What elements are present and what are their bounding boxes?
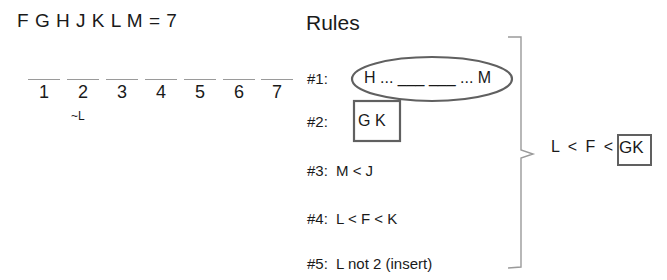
bracket-icon bbox=[508, 37, 533, 268]
conclusion-boxed-text: GK bbox=[619, 138, 644, 158]
conclusion-text: L < F < bbox=[551, 138, 613, 156]
rule-2-box bbox=[354, 101, 400, 141]
rule-1-ellipse bbox=[352, 57, 512, 101]
